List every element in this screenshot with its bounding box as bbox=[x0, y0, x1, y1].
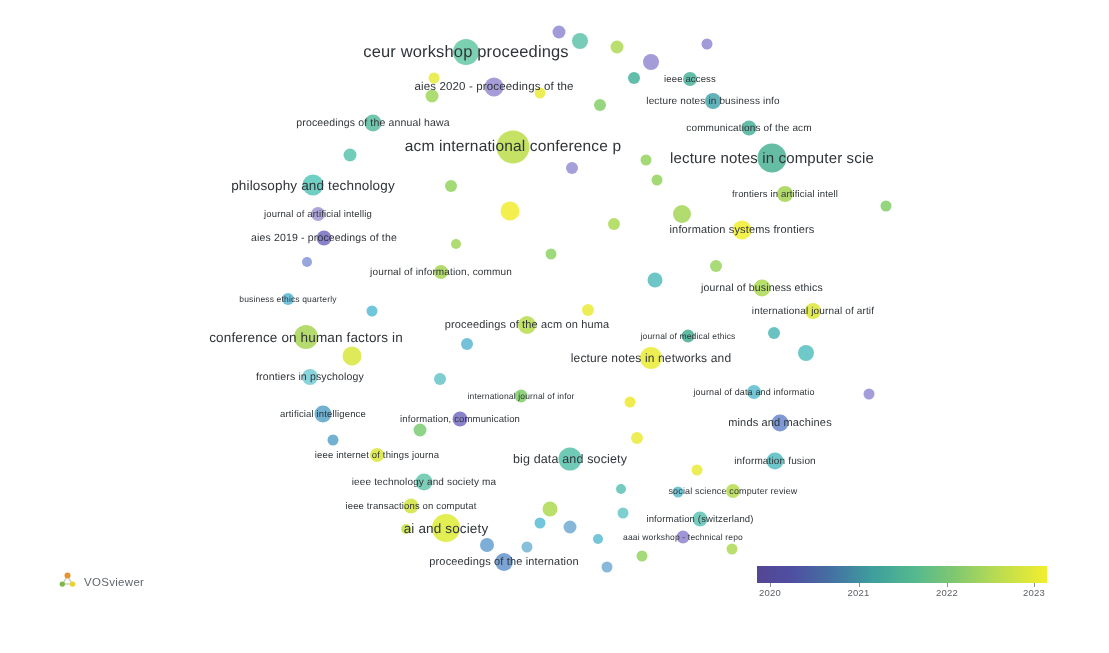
map-node-labeled[interactable] bbox=[294, 325, 318, 349]
map-node-labeled[interactable] bbox=[693, 512, 708, 527]
map-node[interactable] bbox=[414, 424, 427, 437]
map-node[interactable] bbox=[522, 542, 533, 553]
map-node-labeled[interactable] bbox=[772, 415, 789, 432]
map-node-labeled[interactable] bbox=[485, 78, 504, 97]
map-node[interactable] bbox=[566, 162, 578, 174]
map-node-labeled[interactable] bbox=[742, 121, 757, 136]
map-node-labeled[interactable] bbox=[303, 175, 324, 196]
map-node-labeled[interactable] bbox=[640, 347, 662, 369]
map-node[interactable] bbox=[367, 306, 378, 317]
map-node-labeled[interactable] bbox=[370, 448, 384, 462]
map-node[interactable] bbox=[328, 435, 339, 446]
map-node-labeled[interactable] bbox=[515, 390, 528, 403]
map-node[interactable] bbox=[546, 249, 557, 260]
map-node-labeled[interactable] bbox=[559, 448, 582, 471]
map-node-labeled[interactable] bbox=[311, 207, 325, 221]
map-node[interactable] bbox=[702, 39, 713, 50]
map-node[interactable] bbox=[480, 538, 494, 552]
map-node-labeled[interactable] bbox=[682, 330, 695, 343]
map-node-labeled[interactable] bbox=[777, 186, 793, 202]
map-node[interactable] bbox=[302, 257, 312, 267]
overlay-color-legend: 2020202120222023 bbox=[757, 566, 1047, 605]
map-node-labeled[interactable] bbox=[726, 484, 740, 498]
map-node[interactable] bbox=[864, 389, 875, 400]
map-node-labeled[interactable] bbox=[733, 221, 752, 240]
vosviewer-app: ceur workshop proceedingsaies 2020 - pro… bbox=[0, 0, 1109, 653]
map-node-labeled[interactable] bbox=[747, 385, 761, 399]
map-node-labeled[interactable] bbox=[754, 280, 771, 297]
map-node[interactable] bbox=[543, 502, 558, 517]
map-node-labeled[interactable] bbox=[805, 303, 821, 319]
map-node[interactable] bbox=[343, 347, 362, 366]
map-node-labeled[interactable] bbox=[495, 553, 513, 571]
color-legend-tick-label: 2023 bbox=[1023, 587, 1045, 598]
map-node[interactable] bbox=[572, 33, 588, 49]
map-node[interactable] bbox=[881, 201, 892, 212]
map-node[interactable] bbox=[616, 484, 626, 494]
map-node-labeled[interactable] bbox=[404, 499, 419, 514]
vosviewer-brand-label: VOSviewer bbox=[84, 576, 144, 588]
map-node[interactable] bbox=[429, 73, 440, 84]
map-node-labeled[interactable] bbox=[315, 406, 332, 423]
map-node-labeled[interactable] bbox=[365, 115, 382, 132]
map-node[interactable] bbox=[553, 26, 566, 39]
color-gradient-bar bbox=[757, 566, 1047, 583]
map-node-labeled[interactable] bbox=[758, 144, 787, 173]
map-node-labeled[interactable] bbox=[282, 293, 294, 305]
map-node[interactable] bbox=[535, 518, 546, 529]
map-node[interactable] bbox=[628, 72, 640, 84]
map-node[interactable] bbox=[593, 534, 603, 544]
map-node[interactable] bbox=[535, 88, 546, 99]
map-node[interactable] bbox=[652, 175, 663, 186]
map-node[interactable] bbox=[501, 202, 520, 221]
map-node-labeled[interactable] bbox=[518, 316, 536, 334]
map-node[interactable] bbox=[401, 524, 411, 534]
vosviewer-brand: VOSviewer bbox=[58, 570, 144, 593]
network-map-canvas[interactable]: ceur workshop proceedingsaies 2020 - pro… bbox=[0, 0, 1109, 653]
map-node[interactable] bbox=[710, 260, 722, 272]
map-node[interactable] bbox=[461, 338, 473, 350]
color-legend-ticks: 2020202120222023 bbox=[757, 583, 1047, 605]
map-node[interactable] bbox=[637, 551, 648, 562]
map-node[interactable] bbox=[768, 327, 780, 339]
map-node[interactable] bbox=[625, 397, 636, 408]
map-node[interactable] bbox=[673, 487, 684, 498]
map-node[interactable] bbox=[798, 345, 814, 361]
map-node[interactable] bbox=[602, 562, 613, 573]
map-node-labeled[interactable] bbox=[767, 453, 784, 470]
map-node[interactable] bbox=[641, 155, 652, 166]
map-node[interactable] bbox=[618, 508, 629, 519]
vosviewer-cluster-logo-icon bbox=[58, 570, 77, 593]
map-node[interactable] bbox=[582, 304, 594, 316]
map-node[interactable] bbox=[727, 544, 738, 555]
map-node-labeled[interactable] bbox=[683, 72, 697, 86]
map-node[interactable] bbox=[344, 149, 357, 162]
map-node[interactable] bbox=[451, 239, 461, 249]
map-node-labeled[interactable] bbox=[317, 231, 332, 246]
map-node-labeled[interactable] bbox=[453, 412, 468, 427]
color-legend-tick-label: 2021 bbox=[848, 587, 870, 598]
map-node[interactable] bbox=[445, 180, 457, 192]
map-node[interactable] bbox=[611, 41, 624, 54]
map-node[interactable] bbox=[631, 432, 643, 444]
color-legend-tick-label: 2020 bbox=[759, 587, 781, 598]
map-node-labeled[interactable] bbox=[453, 39, 479, 65]
map-node[interactable] bbox=[643, 54, 659, 70]
map-node[interactable] bbox=[673, 205, 691, 223]
map-node-labeled[interactable] bbox=[432, 514, 460, 542]
map-node-labeled[interactable] bbox=[434, 265, 448, 279]
map-node-labeled[interactable] bbox=[416, 474, 433, 491]
map-node-labeled[interactable] bbox=[705, 93, 721, 109]
map-node[interactable] bbox=[594, 99, 606, 111]
map-node[interactable] bbox=[564, 521, 577, 534]
map-node-labeled[interactable] bbox=[677, 531, 690, 544]
map-node[interactable] bbox=[608, 218, 620, 230]
map-node-labeled[interactable] bbox=[302, 369, 318, 385]
map-node-labeled[interactable] bbox=[497, 131, 530, 164]
color-legend-tick-label: 2022 bbox=[936, 587, 958, 598]
map-node[interactable] bbox=[692, 465, 703, 476]
map-node[interactable] bbox=[648, 273, 663, 288]
map-node[interactable] bbox=[434, 373, 446, 385]
map-node[interactable] bbox=[426, 90, 439, 103]
